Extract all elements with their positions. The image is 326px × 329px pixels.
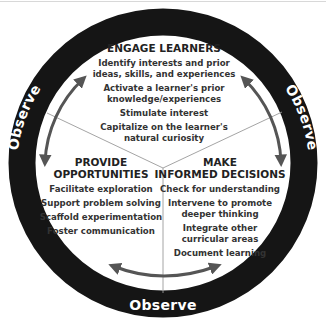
decide-title-line2: INFORMED DECISIONS <box>154 168 285 180</box>
engage-item: Stimulate interest <box>120 108 208 118</box>
decide-item: Intervene to promote <box>168 198 272 208</box>
engage-item: Capitalize on the learner's <box>100 122 228 132</box>
observe-cycle-diagram: Observe Observe Observe ENGAGE LEARNERS … <box>0 0 326 329</box>
engage-item: ideas, skills, and experiences <box>93 69 236 79</box>
observe-label-bottom: Observe <box>129 297 196 313</box>
provide-title-line1: PROVIDE <box>75 156 127 168</box>
provide-item: Foster communication <box>47 226 155 236</box>
provide-title-line2: OPPORTUNITIES <box>53 168 148 180</box>
engage-item: knowledge/experiences <box>107 94 221 104</box>
provide-item: Support problem solving <box>41 198 161 208</box>
engage-title: ENGAGE LEARNERS <box>107 42 221 54</box>
decide-item: curricular areas <box>182 234 259 244</box>
decide-title-line1: MAKE <box>203 156 237 168</box>
section-provide-opportunities: PROVIDE OPPORTUNITIES Facilitate explora… <box>40 156 162 236</box>
section-engage-learners: ENGAGE LEARNERS Identify interests and p… <box>93 42 236 143</box>
decide-item: Document learning <box>174 248 266 258</box>
decide-item: Integrate other <box>183 223 258 233</box>
engage-item: Activate a learner's prior <box>103 83 225 93</box>
decide-item: deeper thinking <box>181 209 258 219</box>
engage-item: natural curiosity <box>124 133 205 143</box>
decide-item: Check for understanding <box>160 184 280 194</box>
provide-item: Facilitate exploration <box>49 184 152 194</box>
bottom-double-arrow-icon <box>113 266 217 276</box>
provide-item: Scaffold experimentation <box>40 212 162 222</box>
engage-item: Identify interests and prior <box>98 58 230 68</box>
